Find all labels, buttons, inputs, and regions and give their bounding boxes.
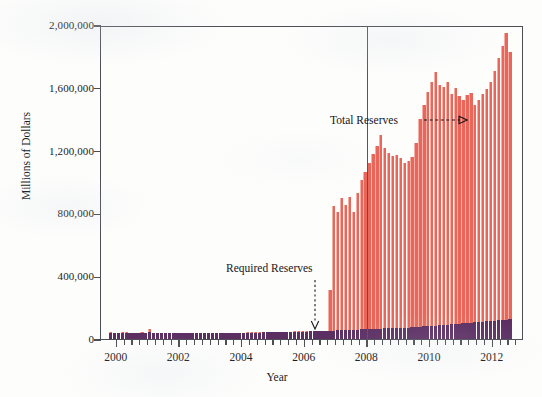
bar [281, 332, 284, 339]
y-axis-tick-label: 1,600,000 [49, 82, 94, 94]
bar [164, 333, 167, 339]
bar-segment-required-reserves [375, 329, 378, 339]
x-axis-tick-label: 2008 [355, 351, 378, 363]
bar [414, 143, 417, 339]
bar [450, 94, 453, 339]
bar-segment-required-reserves [219, 333, 222, 339]
bar-segment-required-reserves [172, 333, 175, 339]
x-axis-tick [468, 340, 469, 345]
x-axis-tick-major [241, 340, 242, 347]
bar-segment-required-reserves [191, 333, 194, 339]
bar-segment-required-reserves [336, 330, 339, 339]
x-axis-tick [406, 340, 407, 345]
bar [332, 206, 335, 339]
bar [344, 205, 347, 339]
x-axis-tick [225, 340, 226, 345]
x-axis-tick [210, 340, 211, 345]
bar [250, 332, 253, 339]
bar [501, 46, 504, 339]
x-axis-label: Year [0, 371, 542, 383]
bar-segment-required-reserves [266, 332, 269, 339]
bar-segment-required-reserves [457, 324, 460, 339]
bar-segment-required-reserves [242, 333, 245, 339]
bar [289, 332, 292, 339]
bar-segment-total-reserves [497, 58, 500, 339]
bar-segment-required-reserves [371, 329, 374, 339]
x-axis-tick [515, 340, 516, 345]
bar [183, 333, 186, 339]
bar [301, 331, 304, 339]
bar-segment-required-reserves [230, 333, 233, 339]
bar-segment-required-reserves [422, 326, 425, 339]
bar-segment-required-reserves [316, 331, 319, 339]
bar-segment-total-reserves [414, 143, 417, 339]
y-axis-tick-label: 1,200,000 [49, 145, 94, 157]
bar-segment-required-reserves [211, 333, 214, 339]
bar [297, 331, 300, 339]
y-axis-tick [94, 214, 101, 215]
bar [242, 333, 245, 339]
y-axis-tick [94, 25, 101, 26]
x-axis-tick [437, 340, 438, 345]
bar-segment-total-reserves [461, 100, 464, 339]
bar-segment-required-reserves [352, 330, 355, 339]
bar [410, 157, 413, 339]
bar [262, 332, 265, 339]
bar-segment-required-reserves [407, 328, 410, 339]
bar [187, 333, 190, 339]
bar-segment-required-reserves [454, 324, 457, 339]
bar-segment-required-reserves [148, 332, 151, 339]
bar-segment-total-reserves [391, 156, 394, 339]
bar [140, 332, 143, 339]
bar-segment-required-reserves [215, 333, 218, 339]
x-axis-tick-label: 2002 [167, 351, 190, 363]
bar-segment-total-reserves [344, 205, 347, 339]
bar-segment-total-reserves [473, 105, 476, 339]
bar [230, 333, 233, 339]
bar-segment-required-reserves [199, 333, 202, 339]
bar [285, 332, 288, 339]
x-axis-tick [218, 340, 219, 345]
bar-segment-required-reserves [207, 333, 210, 339]
bar-segment-required-reserves [277, 332, 280, 339]
bar-segment-total-reserves [508, 52, 511, 339]
bar-segment-required-reserves [144, 333, 147, 339]
bar-segment-total-reserves [403, 163, 406, 339]
x-axis-tick [327, 340, 328, 345]
bar-segment-required-reserves [125, 333, 128, 339]
bar [461, 100, 464, 339]
bar [469, 93, 472, 339]
bar-segment-total-reserves [360, 180, 363, 339]
bar-segment-required-reserves [497, 320, 500, 339]
bar-segment-required-reserves [293, 332, 296, 339]
bar-segment-required-reserves [273, 332, 276, 339]
bar [211, 333, 214, 339]
bar-segment-required-reserves [340, 330, 343, 339]
bar-segment-total-reserves [332, 206, 335, 339]
bar-segment-required-reserves [473, 322, 476, 339]
x-axis-tick [319, 340, 320, 345]
bar [195, 333, 198, 339]
bar [316, 331, 319, 339]
x-axis-tick [147, 340, 148, 345]
x-axis-tick [445, 340, 446, 345]
x-axis-tick [139, 340, 140, 345]
bar-segment-required-reserves [297, 332, 300, 339]
bar-segment-required-reserves [391, 328, 394, 339]
x-axis-tick [359, 340, 360, 345]
x-axis-tick [163, 340, 164, 345]
bar [266, 332, 269, 339]
bar [309, 331, 312, 339]
x-axis-tick [421, 340, 422, 345]
bar-segment-required-reserves [395, 328, 398, 339]
x-axis-tick-major [429, 340, 430, 347]
bar-segment-required-reserves [477, 322, 480, 339]
x-axis-tick [351, 340, 352, 345]
x-axis-tick [413, 340, 414, 345]
x-axis-tick [155, 340, 156, 345]
bar [293, 331, 296, 339]
x-axis-tick [186, 340, 187, 345]
bar-segment-total-reserves [340, 198, 343, 339]
bar-segment-required-reserves [501, 320, 504, 339]
bar [258, 332, 261, 339]
